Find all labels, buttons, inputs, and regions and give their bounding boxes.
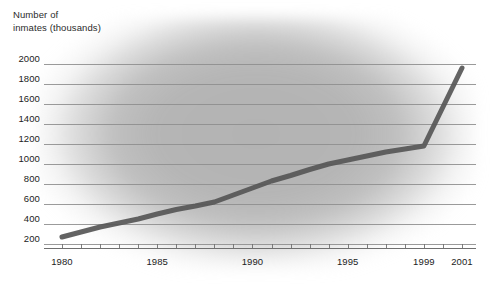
gridlines-group <box>44 65 476 245</box>
y-tick-label-800: 800 <box>0 173 40 184</box>
x-tick-label-1980: 1980 <box>39 256 85 267</box>
y-tick-label-1800: 1800 <box>0 73 40 84</box>
y-tick-label-200: 200 <box>0 233 40 244</box>
x-tick-label-2001: 2001 <box>439 256 485 267</box>
y-tick-label-1400: 1400 <box>0 113 40 124</box>
chart-figure: Number ofinmates (thousands) 20001800160… <box>0 0 492 289</box>
y-tick-label-1600: 1600 <box>0 93 40 104</box>
y-tick-label-600: 600 <box>0 193 40 204</box>
x-tick-label-1995: 1995 <box>325 256 371 267</box>
y-tick-label-1000: 1000 <box>0 153 40 164</box>
y-tick-label-400: 400 <box>0 213 40 224</box>
y-tick-label-1200: 1200 <box>0 133 40 144</box>
chart-plot-area <box>0 0 492 289</box>
y-tick-label-2000: 2000 <box>0 53 40 64</box>
x-tick-label-1985: 1985 <box>134 256 180 267</box>
data-line-series-inmates <box>62 68 462 237</box>
x-tick-label-1990: 1990 <box>229 256 275 267</box>
